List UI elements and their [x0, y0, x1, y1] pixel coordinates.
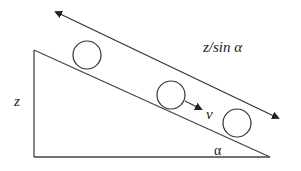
- velocity-arrow: [185, 101, 201, 109]
- ball-top: [73, 41, 101, 69]
- incline-triangle: [34, 50, 270, 157]
- triangle-hypotenuse: [34, 50, 270, 157]
- distance-label: z/sin α: [202, 39, 243, 55]
- distance-double-arrow: [56, 12, 278, 118]
- velocity-label: v: [206, 106, 213, 122]
- ball-bottom: [223, 109, 251, 137]
- incline-diagram: z/sin α v α z: [0, 0, 301, 171]
- height-label: z: [13, 93, 20, 109]
- ball-middle: [157, 81, 185, 109]
- angle-label: α: [214, 143, 222, 158]
